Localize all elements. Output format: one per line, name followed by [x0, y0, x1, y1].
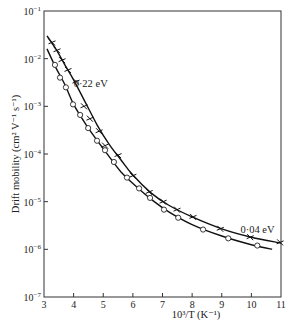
- circle-marker: [124, 175, 129, 180]
- cross-marker: [160, 199, 167, 205]
- circle-marker: [70, 102, 75, 107]
- fit-curves: [47, 36, 281, 249]
- y-tick-label: 10−4: [24, 148, 42, 160]
- y-tick-label: 10−3: [24, 100, 42, 112]
- cross-marker: [59, 57, 66, 63]
- circle-marker: [78, 112, 83, 117]
- x-tick-label: 11: [276, 299, 286, 310]
- circle-marker: [226, 236, 231, 241]
- x-axis-label: 10³/T (K⁻¹): [172, 309, 221, 321]
- mobility-chart: 10−110−210−310−410−510−610−7 34567891011…: [0, 0, 296, 322]
- circle-marker: [111, 159, 116, 164]
- circle-marker: [63, 85, 68, 90]
- circle-marker: [86, 125, 91, 130]
- circle-marker: [255, 243, 260, 248]
- x-tick-label: 7: [160, 299, 165, 310]
- circle-marker: [94, 138, 99, 143]
- energy-label: 0·04 eV: [240, 224, 275, 235]
- cross-marker: [54, 47, 61, 53]
- y-tick-label: 10−7: [24, 291, 42, 303]
- y-axis-label: Drift mobility (cm² V⁻¹ s⁻¹): [10, 94, 22, 213]
- circle-marker: [136, 186, 141, 191]
- circle-marker: [52, 62, 57, 67]
- cross-marker: [174, 207, 181, 213]
- plot-frame: [44, 11, 281, 297]
- circle-marker: [102, 148, 107, 153]
- x-tick-label: 6: [130, 299, 135, 310]
- cross-marker: [146, 189, 153, 195]
- circle-marker: [147, 195, 152, 200]
- energy-label: 0·22 eV: [74, 78, 109, 89]
- x-tick-label: 3: [42, 299, 47, 310]
- x-tick-label: 10: [246, 299, 256, 310]
- y-tick-label: 10−1: [24, 5, 42, 17]
- y-tick-label: 10−2: [24, 53, 42, 65]
- circle-marker: [161, 207, 166, 212]
- cross-marker: [64, 67, 71, 73]
- x-tick-label: 4: [71, 299, 76, 310]
- cross-marker: [48, 39, 55, 45]
- circle-marker: [200, 227, 205, 232]
- circle-marker: [57, 75, 62, 80]
- data-markers: [48, 39, 283, 248]
- y-tick-label: 10−6: [24, 243, 42, 255]
- circle-marker: [176, 215, 181, 220]
- x-tick-label: 5: [101, 299, 106, 310]
- y-tick-label: 10−5: [24, 196, 42, 208]
- cross-marker: [129, 173, 136, 179]
- x-axis-ticks: 34567891011: [42, 293, 286, 310]
